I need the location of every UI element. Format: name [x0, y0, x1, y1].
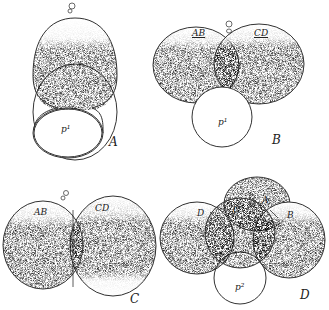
panel-label-b: B: [272, 133, 281, 147]
label-d-a: A: [262, 195, 269, 205]
label-d-d: D: [197, 208, 204, 218]
label-b-cd: CD: [254, 28, 268, 38]
embryo-cleavage-diagram: [0, 0, 329, 310]
label-c-cd: CD: [95, 203, 109, 213]
label-d-b: B: [287, 210, 294, 220]
polar-body-icon: [226, 21, 232, 27]
label-d-p2: p²: [235, 282, 244, 292]
panel-c: [3, 191, 156, 297]
panel-label-d: D: [300, 288, 310, 302]
label-c-ab: AB: [34, 207, 47, 217]
panel-b: [153, 21, 304, 147]
polar-body-icon: [64, 191, 69, 196]
panel-label-a: A: [109, 135, 118, 149]
label-b-p1: p¹: [218, 117, 227, 127]
panel-label-c: C: [130, 292, 139, 306]
polar-body-icon: [69, 3, 75, 9]
label-b-ab: AB: [192, 28, 205, 38]
label-d-c: C: [233, 205, 240, 215]
label-a-p1: p¹: [61, 124, 70, 134]
panel-a: [33, 3, 117, 160]
